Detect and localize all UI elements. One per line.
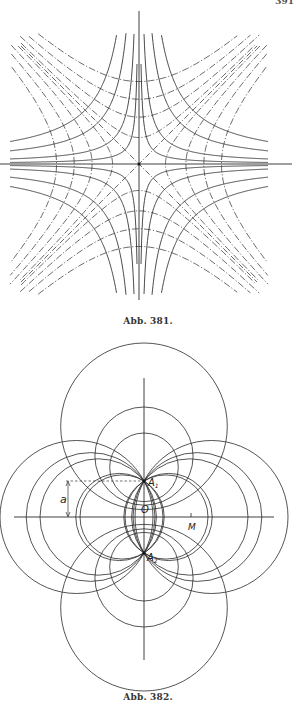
dashdot-hyperbola-3-b1 [11, 67, 57, 262]
dashdot-hyperbola-2-b3 [29, 35, 251, 99]
figure-381-caption: Abb. 381. [0, 316, 296, 326]
label-O: O [141, 504, 149, 515]
figure-382-coaxal-circles [0, 343, 288, 691]
dashdot-hyperbola-3-b2 [38, 247, 237, 295]
dashdot-hyperbola-3-b0 [222, 67, 268, 262]
figure-382-caption: Abb. 382. [0, 692, 296, 702]
dashdot-hyperbola-0-b0 [166, 46, 260, 279]
dashdot-hyperbola-3-b3 [38, 34, 237, 82]
figure-canvas: a A1 A2 O M [0, 0, 296, 705]
dashdot-hyperbola-2-b0 [204, 54, 268, 276]
point-A1-marker [142, 479, 145, 482]
dashdot-hyperbola-0-b2 [21, 191, 254, 285]
dashdot-hyperbola-0-b1 [18, 46, 112, 279]
label-M: M [188, 522, 196, 532]
center-point [138, 163, 141, 166]
dashdot-hyperbola-2-b1 [10, 54, 74, 276]
label-A1: A1 [147, 477, 159, 489]
figure-381-hyperbola-net [0, 11, 292, 300]
dashdot-hyperbola-2-b2 [29, 229, 251, 293]
label-A2: A2 [146, 552, 158, 564]
label-a: a [60, 493, 67, 506]
dashdot-hyperbola-0-b3 [21, 43, 254, 137]
point-A2-marker [142, 551, 145, 554]
